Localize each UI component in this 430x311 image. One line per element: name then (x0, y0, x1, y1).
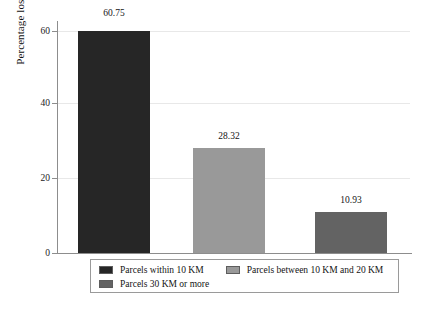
bar-parcels-within-10km[interactable] (78, 31, 150, 253)
legend-label-3: Parcels 30 KM or more (120, 279, 209, 289)
legend-row-2: Parcels 30 KM or more (91, 277, 398, 291)
legend-label-2: Parcels between 10 KM and 20 KM (247, 265, 384, 275)
bar-parcels-between-10-and-20km[interactable] (193, 148, 265, 253)
y-tick-label-20: 20 (8, 173, 50, 183)
legend-entry-parcels-30km-or-more[interactable]: Parcels 30 KM or more (99, 277, 209, 291)
legend-swatch-icon-2 (226, 266, 240, 274)
legend-row-1: Parcels within 10 KM Parcels between 10 … (91, 263, 398, 277)
legend-entry-parcels-between-10-and-20km[interactable]: Parcels between 10 KM and 20 KM (226, 263, 384, 277)
bar-series: 60.75 28.32 10.93 (57, 21, 410, 253)
bar-value-label-1: 60.75 (103, 8, 124, 18)
legend-entry-parcels-within-10km[interactable]: Parcels within 10 KM (99, 263, 204, 277)
y-tick-label-40: 40 (8, 98, 50, 108)
bar-value-label-2: 28.32 (218, 131, 239, 141)
bar-value-label-3: 10.93 (340, 195, 361, 205)
y-tick-label-60: 60 (8, 26, 50, 36)
bar-parcels-30km-or-more[interactable] (315, 212, 387, 253)
chart-legend: Parcels within 10 KM Parcels between 10 … (90, 259, 399, 293)
x-axis-line (57, 253, 412, 254)
y-axis-tick-labels: 60 40 20 0 (0, 0, 50, 311)
legend-swatch-icon-3 (99, 280, 113, 288)
legend-swatch-icon-1 (99, 266, 113, 274)
legend-label-1: Parcels within 10 KM (120, 265, 204, 275)
bar-chart-figure: Percentage loss 60 40 20 0 60.75 28.32 1… (0, 0, 430, 311)
y-tick-label-0: 0 (8, 248, 50, 258)
